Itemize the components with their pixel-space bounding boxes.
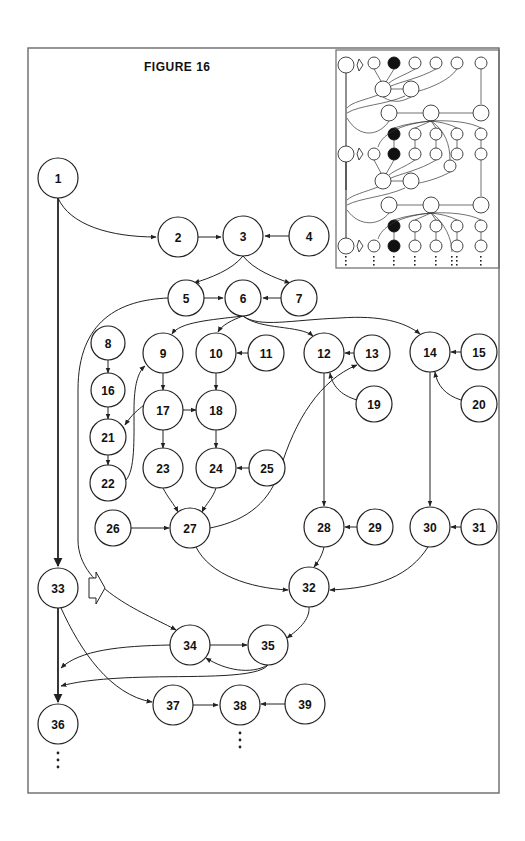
- node-32: 32: [289, 567, 329, 607]
- node-label: 30: [423, 521, 437, 535]
- figure-title: FIGURE 16: [144, 60, 211, 74]
- node-26: 26: [95, 510, 131, 546]
- node-33: 33: [38, 568, 78, 608]
- node-35: 35: [248, 625, 288, 665]
- edge-23-27: [163, 488, 178, 512]
- edge-6-9: [172, 316, 243, 334]
- node-label: 31: [472, 521, 486, 535]
- node-23: 23: [143, 448, 183, 488]
- node-31: 31: [461, 509, 497, 545]
- node-34: 34: [170, 625, 210, 665]
- edge-6-12: [243, 316, 313, 336]
- node-label: 9: [160, 347, 167, 361]
- node-label: 28: [317, 521, 331, 535]
- node-label: 37: [166, 699, 180, 713]
- node-label: 20: [472, 398, 486, 412]
- node-label: 16: [101, 384, 115, 398]
- node-label: 22: [101, 477, 115, 491]
- figure-canvas: FIGURE 16: [0, 0, 525, 841]
- figure-frame: [28, 48, 499, 793]
- node-label: 14: [423, 346, 437, 360]
- hollow-right-arrow-icon: [89, 572, 105, 604]
- node-label: 27: [183, 522, 197, 536]
- node-24: 24: [196, 448, 236, 488]
- node-label: 7: [296, 292, 303, 306]
- node-label: 8: [105, 337, 112, 351]
- node-5: 5: [168, 280, 204, 316]
- edge-33-37: [61, 608, 152, 702]
- node-18: 18: [196, 390, 236, 430]
- node-22: 22: [90, 465, 126, 501]
- node-30: 30: [410, 507, 450, 547]
- edge-19-12: [330, 373, 357, 400]
- node-15: 15: [461, 334, 497, 370]
- node-29: 29: [357, 509, 393, 545]
- node-label: 13: [365, 347, 379, 361]
- edge-35-36: [61, 665, 268, 686]
- node-20: 20: [461, 386, 497, 422]
- node-label: 3: [240, 230, 247, 244]
- edge-27-32: [196, 547, 288, 590]
- edge-6-14: [243, 316, 420, 334]
- node-label: 38: [233, 699, 247, 713]
- node-3: 3: [223, 216, 263, 256]
- node-25: 25: [249, 450, 285, 486]
- node-label: 2: [175, 231, 182, 245]
- edge-22-9: [126, 366, 145, 480]
- node-21: 21: [90, 419, 126, 455]
- node-label: 17: [156, 404, 170, 418]
- edge-30-32: [330, 547, 428, 590]
- node-9: 9: [143, 333, 183, 373]
- node-6: 6: [225, 280, 261, 316]
- node-16: 16: [91, 373, 125, 407]
- node-2: 2: [158, 217, 198, 257]
- node-label: 29: [368, 521, 382, 535]
- edge-24-27: [202, 488, 216, 512]
- node-label: 18: [209, 404, 223, 418]
- nodes: 1234567891011121314151617181920212223242…: [38, 158, 497, 744]
- node-11: 11: [248, 335, 284, 371]
- node-8: 8: [91, 326, 125, 360]
- node-label: 6: [240, 292, 247, 306]
- edge-1-2: [58, 198, 156, 237]
- node-39: 39: [285, 684, 325, 724]
- node-36: 36: [38, 704, 78, 744]
- edge-34-36: [61, 645, 170, 668]
- node-label: 39: [298, 698, 312, 712]
- overview-inset: [336, 50, 499, 268]
- node-37: 37: [153, 685, 193, 725]
- node-label: 24: [209, 462, 223, 476]
- node-28: 28: [304, 507, 344, 547]
- node-10: 10: [196, 333, 236, 373]
- node-label: 33: [51, 582, 65, 596]
- node-38: 38: [220, 685, 260, 725]
- continuation-dots-36: [57, 752, 60, 769]
- edge-3-7: [243, 256, 290, 283]
- node-1: 1: [38, 158, 78, 198]
- node-13: 13: [354, 335, 390, 371]
- node-label: 11: [260, 347, 273, 361]
- node-label: 26: [106, 522, 120, 536]
- continuation-dots-38: [239, 732, 242, 749]
- node-label: 36: [51, 718, 65, 732]
- node-label: 35: [261, 639, 275, 653]
- edge-32-35: [287, 607, 309, 638]
- node-4: 4: [289, 216, 329, 256]
- node-12: 12: [304, 333, 344, 373]
- node-label: 4: [306, 230, 313, 244]
- edge-28-32: [314, 547, 324, 567]
- node-label: 34: [183, 639, 197, 653]
- node-27: 27: [170, 508, 210, 548]
- node-19: 19: [356, 386, 392, 422]
- edge-3-5: [194, 256, 243, 283]
- node-label: 12: [317, 347, 331, 361]
- edge-27-13: [210, 365, 357, 528]
- node-label: 10: [209, 347, 223, 361]
- node-label: 1: [55, 172, 62, 186]
- node-label: 32: [302, 581, 316, 595]
- edge-20-14: [435, 372, 461, 400]
- node-17: 17: [143, 390, 183, 430]
- node-label: 25: [260, 462, 274, 476]
- node-label: 21: [101, 431, 115, 445]
- node-14: 14: [410, 332, 450, 372]
